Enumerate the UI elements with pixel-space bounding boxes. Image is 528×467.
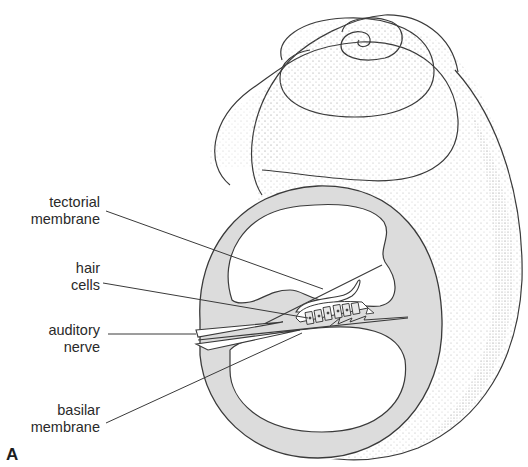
label-line: tectorial xyxy=(31,194,100,211)
panel-label: A xyxy=(6,445,18,465)
label-line: membrane xyxy=(31,211,100,228)
label-line: cells xyxy=(71,277,100,294)
cochlea-diagram xyxy=(0,0,528,467)
label-line: hair xyxy=(71,260,100,277)
label-line: nerve xyxy=(48,339,100,356)
label-line: basilar xyxy=(31,402,100,419)
label-line: membrane xyxy=(31,419,100,436)
label-tectorial-membrane: tectorial membrane xyxy=(31,194,100,228)
label-auditory-nerve: auditory nerve xyxy=(48,322,100,356)
cochlear-duct-section xyxy=(190,186,446,460)
label-hair-cells: hair cells xyxy=(71,260,100,294)
label-line: auditory xyxy=(48,322,100,339)
label-basilar-membrane: basilar membrane xyxy=(31,402,100,436)
